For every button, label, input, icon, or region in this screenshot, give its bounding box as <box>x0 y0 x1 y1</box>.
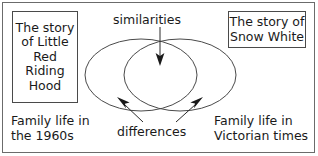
left-caption-line-2: the 1960s <box>11 128 90 143</box>
left-story-line-5: Hood <box>29 79 62 94</box>
left-story-line-1: The story <box>16 21 75 36</box>
differences-arrow-left <box>117 97 143 122</box>
right-caption: Family life in Victorian times <box>214 113 308 143</box>
left-story-line-4: Riding <box>25 64 64 79</box>
left-caption: Family life in the 1960s <box>11 113 90 143</box>
right-story-box: The story of Snow White <box>228 11 306 48</box>
similarities-label: similarities <box>113 12 181 27</box>
right-caption-line-1: Family life in <box>214 113 308 128</box>
left-story-box: The story of Little Red Riding Hood <box>12 11 78 103</box>
venn-circle-right <box>124 39 236 111</box>
right-caption-line-2: Victorian times <box>214 128 308 143</box>
diagram-canvas: The story of Little Red Riding Hood The … <box>0 0 318 156</box>
similarities-arrow <box>156 27 165 66</box>
left-caption-line-1: Family life in <box>11 113 90 128</box>
right-story-line-2: Snow White <box>230 30 304 45</box>
left-story-line-2: of Little <box>21 35 68 50</box>
differences-label: differences <box>117 124 186 139</box>
left-story-line-3: Red <box>33 50 57 65</box>
right-story-line-1: The story of <box>230 15 305 30</box>
venn-circle-left <box>85 39 197 111</box>
